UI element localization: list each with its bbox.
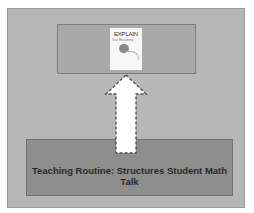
book-cover-icon: EXPLAIN Your Reasoning [110,28,142,70]
up-arrow-icon [104,74,148,154]
book-subtitle: Your Reasoning [112,38,142,42]
book-decoration-icon [126,51,139,60]
bottom-box-label: Teaching Routine: Structures Student Mat… [31,165,228,187]
book-title: EXPLAIN [110,31,142,37]
